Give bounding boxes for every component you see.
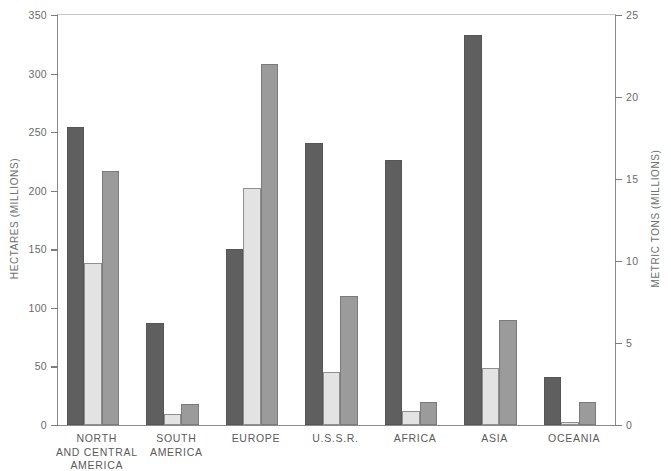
y-tick-label-left: 0 [41, 420, 47, 431]
y-tick-left [51, 249, 58, 250]
y-tick-left [51, 15, 58, 16]
y-tick-right [615, 343, 622, 344]
bar [385, 160, 403, 425]
y-tick-label-left: 150 [29, 244, 47, 255]
bar [181, 404, 199, 425]
y-tick-left [51, 132, 58, 133]
y-tick-right [615, 97, 622, 98]
y-tick-label-right: 10 [626, 256, 638, 267]
bar [226, 249, 244, 425]
y-tick-right [615, 425, 622, 426]
y-axis-left-title: HECTARES (MILLIONS) [9, 119, 20, 319]
bar [482, 368, 500, 425]
bar [305, 143, 323, 425]
y-axis-right-title: METRIC TONS (MILLIONS) [650, 119, 661, 319]
plot-area: 050100150200250300350 0510152025 [57, 14, 616, 426]
bar [84, 263, 102, 425]
y-tick-label-right: 0 [626, 420, 632, 431]
y-tick-right [615, 179, 622, 180]
bar [102, 171, 120, 425]
bar [323, 372, 341, 425]
bar [402, 411, 420, 425]
bar [561, 422, 579, 426]
y-tick-label-left: 250 [29, 127, 47, 138]
y-tick-label-left: 50 [35, 361, 47, 372]
bar [261, 64, 279, 425]
y-tick-label-left: 300 [29, 68, 47, 79]
bar [340, 296, 358, 425]
y-tick-label-right: 25 [626, 10, 638, 21]
y-tick-right [615, 15, 622, 16]
y-tick-label-left: 100 [29, 303, 47, 314]
bar [464, 35, 482, 425]
bar [544, 377, 562, 425]
y-tick-label-right: 5 [626, 338, 632, 349]
bar [420, 402, 438, 425]
bar [67, 127, 85, 425]
bar-series-container [58, 15, 615, 425]
y-tick-left [51, 425, 58, 426]
bar [579, 402, 597, 425]
bar-chart: HECTARES (MILLIONS) METRIC TONS (MILLION… [0, 0, 671, 471]
y-tick-label-left: 350 [29, 10, 47, 21]
bar [164, 414, 182, 425]
bar [243, 188, 261, 425]
y-tick-right [615, 261, 622, 262]
y-tick-label-right: 15 [626, 174, 638, 185]
y-tick-label-right: 20 [626, 92, 638, 103]
bar [499, 320, 517, 425]
bar [146, 323, 164, 425]
y-tick-label-left: 200 [29, 185, 47, 196]
y-tick-left [51, 191, 58, 192]
y-tick-left [51, 366, 58, 367]
x-axis-category-label: OCEANIA [514, 432, 634, 446]
y-tick-left [51, 74, 58, 75]
y-tick-left [51, 308, 58, 309]
